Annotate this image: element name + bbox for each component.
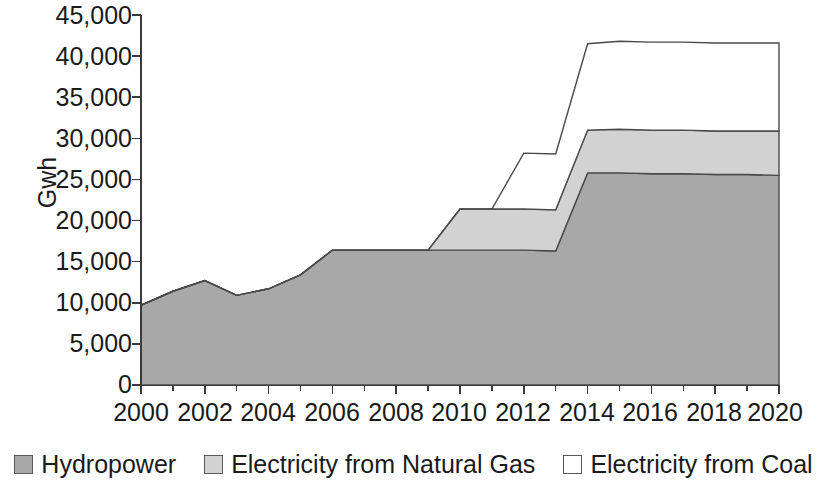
x-tick-label: 2014 — [559, 400, 615, 425]
y-tick-label: 35,000 — [10, 85, 132, 110]
y-tick-label: 20,000 — [10, 208, 132, 233]
y-tick-label: 15,000 — [10, 249, 132, 274]
tick-layer — [132, 15, 779, 394]
y-tick-label: 5,000 — [10, 331, 132, 356]
x-tick-label: 2002 — [177, 400, 233, 425]
axis-layer — [141, 15, 779, 386]
x-tick-label: 2012 — [495, 400, 551, 425]
legend-label: Hydropower — [41, 452, 176, 477]
x-tick-label: 2000 — [113, 400, 169, 425]
legend-swatch-icon — [204, 455, 223, 474]
y-tick-label: 30,000 — [10, 126, 132, 151]
stacked-area-chart: Gwh 45,000 40,000 35,000 30,000 25,000 2… — [0, 0, 827, 483]
x-tick-label: 2004 — [240, 400, 296, 425]
y-tick-label: 10,000 — [10, 290, 132, 315]
legend-item-coal[interactable]: Electricity from Coal — [563, 452, 812, 477]
area-series — [141, 129, 779, 305]
chart-legend: Hydropower Electricity from Natural Gas … — [0, 446, 827, 483]
y-tick-label: 40,000 — [10, 44, 132, 69]
legend-label: Electricity from Natural Gas — [231, 452, 535, 477]
x-tick-label: 2006 — [304, 400, 360, 425]
series-layer — [141, 41, 779, 385]
legend-swatch-icon — [563, 455, 582, 474]
x-tick-label: 2016 — [622, 400, 678, 425]
legend-item-natural-gas[interactable]: Electricity from Natural Gas — [204, 452, 535, 477]
x-tick-label: 2008 — [368, 400, 424, 425]
area-series — [141, 173, 779, 385]
legend-item-hydropower[interactable]: Hydropower — [14, 452, 176, 477]
y-tick-label: 25,000 — [10, 167, 132, 192]
y-tick-label: 45,000 — [10, 3, 132, 28]
legend-swatch-icon — [14, 455, 33, 474]
y-tick-label: 0 — [10, 372, 132, 397]
y-axis-tick-labels: 45,000 40,000 35,000 30,000 25,000 20,00… — [10, 0, 132, 400]
x-tick-label: 2020 — [747, 400, 803, 425]
area-series — [141, 41, 779, 305]
legend-label: Electricity from Coal — [590, 452, 812, 477]
x-tick-label: 2010 — [431, 400, 487, 425]
x-tick-label: 2018 — [686, 400, 742, 425]
